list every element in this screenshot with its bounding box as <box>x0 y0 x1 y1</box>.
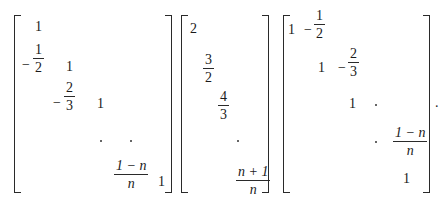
denominator: n <box>128 175 135 191</box>
m2-d1: 2 <box>190 22 197 36</box>
m3-rncn: 1 <box>403 172 410 186</box>
numerator: n + 1 <box>236 164 270 181</box>
m2-d3-fraction: 4 3 <box>218 89 229 122</box>
numerator: 1 − n <box>114 158 148 175</box>
denominator: 3 <box>350 63 357 79</box>
m3-r2c2: 1 <box>318 61 325 75</box>
numerator: 4 <box>218 89 229 106</box>
m2-d2-fraction: 3 2 <box>203 52 214 85</box>
denominator: 2 <box>205 69 212 85</box>
m3-r1c1: 1 <box>288 23 295 37</box>
m3-ellipsis-dot-2 <box>375 141 377 143</box>
denominator: 3 <box>220 106 227 122</box>
matrix-2-left-bracket <box>181 15 188 193</box>
m1-ellipsis-dot-2 <box>130 140 132 142</box>
m3-rprev-cn-fraction: 1 − n n <box>393 125 427 158</box>
m1-r3c2-fraction: 2 3 <box>64 80 75 113</box>
denominator: 3 <box>66 97 73 113</box>
m3-r2c3-sign: − <box>338 61 346 75</box>
m1-r3c2-sign: − <box>53 96 61 110</box>
m1-rncn: 1 <box>158 175 165 189</box>
m1-ellipsis-dot-1 <box>100 140 102 142</box>
matrix-1-right-bracket <box>165 15 172 193</box>
numerator: 2 <box>348 46 359 63</box>
m1-r3c3: 1 <box>97 97 104 111</box>
numerator: 2 <box>64 80 75 97</box>
m3-r1c2-fraction: 1 2 <box>314 8 325 41</box>
m1-rn-subdiag-fraction: 1 − n n <box>114 158 148 191</box>
denominator: 2 <box>316 25 323 41</box>
m3-r2c3-fraction: 2 3 <box>348 46 359 79</box>
matrix-3-left-bracket <box>283 15 290 193</box>
numerator: 1 − n <box>393 125 427 142</box>
m2-ellipsis-dot <box>237 140 239 142</box>
numerator: 1 <box>33 42 44 59</box>
denominator: n <box>250 181 257 197</box>
m3-ellipsis-dot-1 <box>375 104 377 106</box>
m1-r2c1-fraction: 1 2 <box>33 42 44 75</box>
matrix-3-right-bracket <box>423 15 430 193</box>
m3-r3c3: 1 <box>349 97 356 111</box>
m3-r1c2-sign: − <box>304 23 312 37</box>
m2-dn-fraction: n + 1 n <box>236 164 270 197</box>
terminal-period: . <box>435 96 439 110</box>
numerator: 3 <box>203 52 214 69</box>
numerator: 1 <box>314 8 325 25</box>
denominator: n <box>407 142 414 158</box>
matrix-1-left-bracket <box>14 15 21 193</box>
m1-r1c1: 1 <box>35 20 42 34</box>
m1-r2c1-sign: − <box>22 58 30 72</box>
m1-r2c2: 1 <box>66 60 73 74</box>
denominator: 2 <box>35 59 42 75</box>
